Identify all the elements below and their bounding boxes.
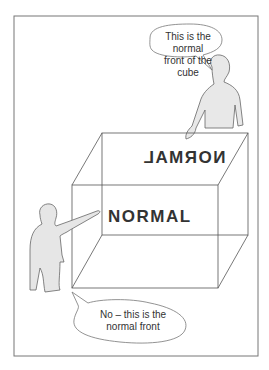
speech-bubble-top-right-text: This is the normal front of the cube — [158, 31, 218, 79]
cube-front-label: NORMAL — [108, 207, 192, 227]
speech-bubble-bottom-left-text: No – this is the normal front — [88, 309, 178, 333]
person-bottom-left-figure — [30, 204, 100, 292]
bubble-line-2: front of the cube — [158, 55, 218, 79]
bubble-line-1: This is the normal — [158, 31, 218, 55]
cube-back-label-mirrored: NORMAL — [142, 148, 226, 168]
bubble-line-1: No – this is the — [88, 309, 178, 321]
bubble-line-2: normal front — [88, 321, 178, 333]
